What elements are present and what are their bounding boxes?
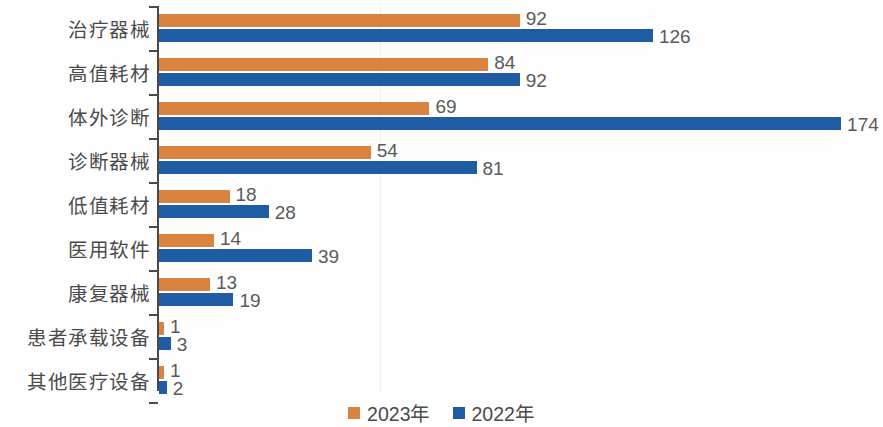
bar-value-label: 126	[659, 27, 691, 46]
bar-value-label: 13	[216, 273, 237, 292]
bar-2022	[159, 337, 171, 350]
bar-2023	[159, 278, 210, 291]
bar-row: 患者承载设备13	[0, 314, 883, 358]
category-label: 治疗器械	[0, 14, 150, 43]
bar-2022	[159, 381, 167, 394]
category-label: 医用软件	[0, 234, 150, 263]
category-label: 其他医疗设备	[0, 366, 150, 395]
bar-row: 高值耗材8492	[0, 50, 883, 94]
horizontal-bar-chart: 治疗器械92126高值耗材8492体外诊断69174诊断器械5481低值耗材18…	[0, 0, 883, 427]
bar-value-label: 14	[220, 229, 241, 248]
bar-row: 医用软件1439	[0, 226, 883, 270]
category-label: 诊断器械	[0, 146, 150, 175]
axis-tick	[149, 182, 158, 184]
axis-tick	[149, 358, 158, 360]
axis-tick	[149, 138, 158, 140]
bar-value-label: 84	[494, 53, 515, 72]
bar-2023	[159, 234, 214, 247]
axis-tick	[149, 6, 158, 8]
bar-2022	[159, 73, 520, 86]
bar-value-label: 39	[318, 247, 339, 266]
axis-tick	[149, 226, 158, 228]
bar-value-label: 3	[177, 335, 188, 354]
bar-value-label: 174	[847, 115, 879, 134]
bar-value-label: 19	[239, 291, 260, 310]
legend-swatch-icon	[453, 407, 465, 419]
bar-2023	[159, 14, 520, 27]
bar-value-label: 28	[275, 203, 296, 222]
plot-area: 治疗器械92126高值耗材8492体外诊断69174诊断器械5481低值耗材18…	[0, 0, 883, 396]
legend-swatch-icon	[348, 407, 360, 419]
bar-row: 诊断器械5481	[0, 138, 883, 182]
legend-item-2022年[interactable]: 2022年	[453, 398, 535, 427]
bar-2022	[159, 117, 841, 130]
bar-2023	[159, 146, 371, 159]
bar-value-label: 92	[526, 71, 547, 90]
bar-value-label: 2	[173, 379, 184, 398]
axis-tick	[149, 94, 158, 96]
category-label: 体外诊断	[0, 102, 150, 131]
chart-legend: 2023年2022年	[0, 398, 883, 427]
bar-value-label: 81	[483, 159, 504, 178]
bar-row: 治疗器械92126	[0, 6, 883, 50]
legend-label: 2023年	[367, 398, 430, 427]
bar-2022	[159, 161, 477, 174]
bar-2023	[159, 366, 164, 379]
bar-2023	[159, 58, 488, 71]
bar-row: 其他医疗设备12	[0, 358, 883, 402]
category-label: 患者承载设备	[0, 322, 150, 351]
bar-2023	[159, 102, 429, 115]
bar-row: 体外诊断69174	[0, 94, 883, 138]
category-label: 高值耗材	[0, 58, 150, 87]
bar-row: 康复器械1319	[0, 270, 883, 314]
bar-2022	[159, 293, 233, 306]
bar-value-label: 54	[377, 141, 398, 160]
bar-2023	[159, 190, 230, 203]
axis-tick	[149, 50, 158, 52]
category-label: 低值耗材	[0, 190, 150, 219]
category-label: 康复器械	[0, 278, 150, 307]
bar-2022	[159, 249, 312, 262]
axis-tick	[149, 270, 158, 272]
axis-tick	[149, 314, 158, 316]
bar-2022	[159, 205, 269, 218]
bar-2022	[159, 29, 653, 42]
bar-value-label: 69	[435, 97, 456, 116]
bar-value-label: 18	[236, 185, 257, 204]
bar-value-label: 92	[526, 9, 547, 28]
legend-item-2023年[interactable]: 2023年	[348, 398, 430, 427]
legend-label: 2022年	[472, 398, 535, 427]
bar-2023	[159, 322, 164, 335]
bar-row: 低值耗材1828	[0, 182, 883, 226]
